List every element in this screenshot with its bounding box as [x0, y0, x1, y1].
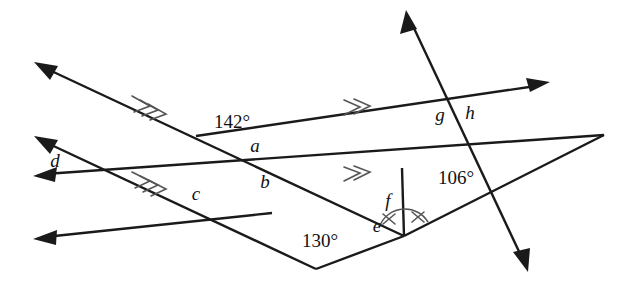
angle-measure-130: 130°: [302, 230, 338, 251]
angle-measure-106: 106°: [438, 167, 474, 188]
arrowhead-upper-parallel-right: [526, 78, 550, 92]
arrowhead-steep-bottom: [513, 248, 530, 272]
segment-vertical: [402, 168, 404, 236]
diagram-canvas: Angle relationships diagram with paralle…: [0, 0, 621, 294]
arrowhead-lower-parallel-left: [33, 230, 57, 245]
angle-label-f: f: [385, 190, 393, 211]
arrowhead-upper-left-transversal: [34, 62, 58, 80]
tick-double-upper-parallel: [344, 99, 370, 115]
angle-label-c: c: [192, 183, 201, 204]
tick-double-middle-parallel: [344, 166, 370, 181]
line-upper-left-transversal: [34, 62, 404, 236]
angle-label-d: d: [50, 150, 60, 171]
geometry-figure: Angle relationships diagram with paralle…: [0, 0, 621, 294]
line-middle-parallel: [33, 135, 604, 182]
angle-label-e: e: [373, 215, 381, 236]
angle-label-b: b: [260, 171, 270, 192]
line-lower-parallel: [33, 213, 272, 245]
angle-measure-142: 142°: [214, 111, 250, 132]
angle-label-a: a: [250, 135, 260, 156]
angle-label-g: g: [435, 104, 445, 125]
line-lower-left-transversal: [34, 136, 316, 269]
angle-label-h: h: [465, 102, 475, 123]
